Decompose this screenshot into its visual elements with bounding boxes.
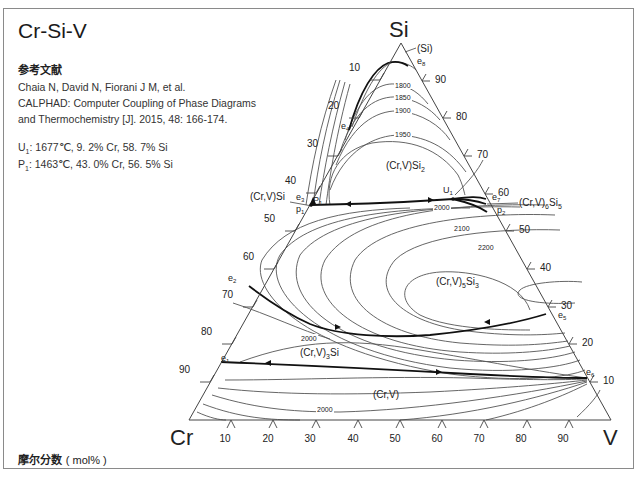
svg-text:2000: 2000 bbox=[434, 204, 450, 211]
svg-text:1900: 1900 bbox=[395, 107, 411, 114]
phase-cr-v: (Cr,V) bbox=[373, 389, 399, 400]
svg-text:90: 90 bbox=[435, 74, 447, 85]
vertex-cr: Cr bbox=[170, 425, 193, 450]
svg-text:60: 60 bbox=[243, 251, 255, 262]
label-e6: e6 bbox=[586, 367, 595, 378]
svg-text:30: 30 bbox=[304, 433, 316, 444]
svg-text:70: 70 bbox=[222, 289, 234, 300]
left-axis-ticks bbox=[200, 73, 384, 382]
bottom-axis-labels: 10 20 30 40 50 60 70 80 90 bbox=[219, 433, 569, 444]
phase-cr-v-si: (Cr,V)Si bbox=[250, 191, 285, 202]
label-e8: e8 bbox=[417, 56, 426, 67]
label-P1: P1 bbox=[313, 195, 323, 206]
left-axis-labels: 10 20 30 40 50 60 70 80 90 bbox=[179, 62, 361, 375]
svg-text:80: 80 bbox=[456, 111, 468, 122]
svg-text:40: 40 bbox=[540, 262, 552, 273]
phase-cr-v-3si: (Cr,V)3Si bbox=[300, 347, 339, 360]
bottom-axis-ticks bbox=[227, 420, 573, 428]
vertex-v: V bbox=[603, 425, 618, 450]
svg-text:10: 10 bbox=[219, 433, 231, 444]
label-p1: p1 bbox=[296, 204, 305, 215]
label-e4: e4 bbox=[341, 121, 350, 132]
phase-si: (Si) bbox=[417, 43, 433, 54]
svg-text:1850: 1850 bbox=[395, 94, 411, 101]
label-U1: U1 bbox=[443, 185, 454, 196]
svg-text:20: 20 bbox=[582, 337, 594, 348]
svg-text:40: 40 bbox=[347, 433, 359, 444]
svg-text:1950: 1950 bbox=[395, 131, 411, 138]
svg-text:90: 90 bbox=[557, 433, 569, 444]
isotherm-lines bbox=[197, 62, 600, 420]
svg-text:20: 20 bbox=[328, 100, 340, 111]
svg-text:2100: 2100 bbox=[454, 225, 470, 232]
point-labels: e1 e2 e3 e4 e5 e6 e7 e8 p1 p2 P1 U1 bbox=[221, 56, 595, 378]
svg-text:30: 30 bbox=[307, 138, 319, 149]
svg-text:2200: 2200 bbox=[478, 244, 494, 251]
phase-cr-v-6si5: (Cr,V)6Si5 bbox=[519, 197, 562, 210]
svg-text:80: 80 bbox=[201, 326, 213, 337]
label-e5: e5 bbox=[558, 310, 567, 321]
label-e1: e1 bbox=[221, 353, 230, 364]
svg-text:50: 50 bbox=[519, 224, 531, 235]
phase-cr-v-si2: (Cr,V)Si2 bbox=[386, 160, 425, 173]
right-axis-ticks bbox=[422, 74, 598, 382]
svg-text:2000: 2000 bbox=[317, 406, 333, 413]
svg-text:60: 60 bbox=[431, 433, 443, 444]
svg-text:70: 70 bbox=[473, 433, 485, 444]
label-e2: e2 bbox=[228, 273, 237, 284]
svg-text:50: 50 bbox=[264, 213, 276, 224]
svg-text:1800: 1800 bbox=[395, 82, 411, 89]
label-e3: e3 bbox=[296, 192, 305, 203]
svg-text:80: 80 bbox=[515, 433, 527, 444]
svg-text:20: 20 bbox=[262, 433, 274, 444]
svg-text:2000: 2000 bbox=[301, 335, 317, 342]
svg-text:90: 90 bbox=[179, 364, 191, 375]
svg-text:10: 10 bbox=[349, 62, 361, 73]
svg-text:10: 10 bbox=[603, 375, 615, 386]
svg-text:40: 40 bbox=[285, 175, 297, 186]
ternary-diagram: 10 20 30 40 50 60 70 80 90 90 80 70 60 5… bbox=[0, 0, 641, 479]
svg-text:50: 50 bbox=[389, 433, 401, 444]
svg-text:70: 70 bbox=[477, 149, 489, 160]
phase-cr-v-5si3: (Cr,V)5Si3 bbox=[436, 276, 479, 289]
vertex-si: Si bbox=[389, 17, 409, 42]
